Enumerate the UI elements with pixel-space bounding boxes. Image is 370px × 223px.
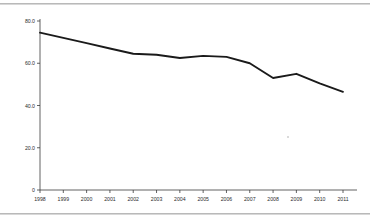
- y-tick-label: 80.0: [25, 18, 35, 24]
- data-series-group: [40, 33, 343, 92]
- y-tick-label: 0: [32, 187, 35, 193]
- line-chart: 020.040.060.080.0 1998199920002001200220…: [0, 8, 370, 211]
- x-tick-label: 2004: [174, 196, 186, 202]
- x-axis: 1998199920002001200220032004200520062007…: [34, 190, 357, 202]
- y-tick-label: 20.0: [25, 145, 35, 151]
- bottom-divider-rule-shadow: [0, 214, 370, 215]
- x-tick-label: 1999: [58, 196, 70, 202]
- chart-canvas: 020.040.060.080.0 1998199920002001200220…: [0, 8, 370, 211]
- x-tick-label: 2005: [197, 196, 209, 202]
- x-tick-label: 1998: [34, 196, 46, 202]
- chart-page: 020.040.060.080.0 1998199920002001200220…: [0, 0, 370, 223]
- x-tick-label: 2007: [244, 196, 256, 202]
- x-tick-label: 2010: [314, 196, 326, 202]
- x-tick-label: 2002: [127, 196, 139, 202]
- y-tick-label: 40.0: [25, 103, 35, 109]
- x-tick-label: 2009: [291, 196, 303, 202]
- y-tick-label: 60.0: [25, 60, 35, 66]
- x-tick-label: 2001: [104, 196, 116, 202]
- y-axis: 020.040.060.080.0: [25, 18, 40, 193]
- x-tick-label: 2006: [221, 196, 233, 202]
- top-divider-rule-shadow: [0, 4, 370, 5]
- x-tick-label: 2008: [267, 196, 279, 202]
- x-tick-label: 2003: [151, 196, 163, 202]
- x-tick-label: 2000: [81, 196, 93, 202]
- x-tick-label: 2011: [337, 196, 348, 202]
- data-line-1: [40, 33, 343, 92]
- stray-speck: [287, 136, 288, 137]
